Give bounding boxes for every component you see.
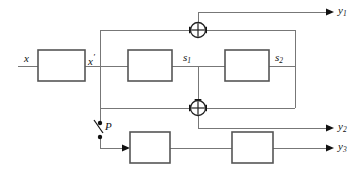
label-output-y1: y1 <box>338 5 347 16</box>
arrowhead-y1 <box>326 8 334 15</box>
label-x-prime-mark: ′ <box>93 52 95 62</box>
arrowhead-y3 <box>326 144 334 151</box>
label-input-x-text: x <box>24 52 29 64</box>
block-lower-2[interactable] <box>232 132 273 163</box>
label-s1-subscript: 1 <box>187 56 191 65</box>
label-output-y2: y2 <box>338 121 347 132</box>
label-switch-p-text: P <box>105 120 112 132</box>
block-diagram: x x′ s1 s2 P y1 y2 y3 <box>0 0 362 170</box>
output-path-y1 <box>198 8 334 22</box>
label-state-s1: s1 <box>183 52 191 63</box>
label-y1-subscript: 1 <box>343 9 347 18</box>
arrowhead-y2 <box>326 124 334 131</box>
block-delay-1[interactable] <box>128 50 172 81</box>
block-lower-1[interactable] <box>130 132 170 163</box>
switch-lower-contact-dot <box>98 135 102 139</box>
output-path-y2 <box>198 116 334 132</box>
block-input[interactable] <box>38 50 85 81</box>
label-s2-subscript: 2 <box>279 56 283 65</box>
label-output-y3: y3 <box>338 141 347 152</box>
label-state-s2: s2 <box>275 52 283 63</box>
label-switch-p: P <box>105 121 112 132</box>
switch-p-graphic[interactable] <box>94 120 103 139</box>
adder-top[interactable] <box>191 23 206 38</box>
label-y3-subscript: 3 <box>343 145 347 154</box>
label-node-x-prime: x′ <box>88 53 95 67</box>
branch-xprime-to-bottom-adder <box>100 104 196 111</box>
switch-upper-contact-dot <box>98 121 102 125</box>
block-delay-2[interactable] <box>225 50 269 81</box>
diagram-canvas <box>0 0 362 170</box>
adder-bottom[interactable] <box>191 101 206 116</box>
arrowhead-lower1-input <box>122 144 130 151</box>
label-input-x: x <box>24 53 29 64</box>
label-y2-subscript: 2 <box>343 125 347 134</box>
